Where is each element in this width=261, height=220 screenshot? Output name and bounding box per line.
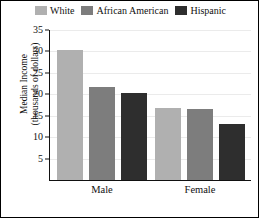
- bars-layer: [1, 18, 260, 219]
- group-label-female: Female: [185, 184, 216, 196]
- legend-entry-african-american: African American: [81, 5, 168, 16]
- legend-swatch-african-american-icon: [81, 6, 93, 15]
- bar-female-african-american: [187, 109, 213, 180]
- legend-entry-hispanic: Hispanic: [175, 5, 226, 16]
- legend-swatch-hispanic-icon: [175, 6, 187, 15]
- legend-label-african-american: African American: [96, 5, 168, 16]
- legend-label-hispanic: Hispanic: [190, 5, 226, 16]
- group-label-male: Male: [91, 184, 113, 196]
- bar-male-african-american: [89, 87, 115, 180]
- bar-female-hispanic: [219, 124, 245, 180]
- bar-male-hispanic: [121, 93, 147, 180]
- bar-female-white: [155, 108, 181, 180]
- bar-male-white: [57, 50, 83, 180]
- plot-area: Median Income (thousands of dollars) 353…: [1, 18, 260, 219]
- chart-figure: White African American Hispanic Median I…: [0, 0, 259, 218]
- legend-label-white: White: [50, 5, 74, 16]
